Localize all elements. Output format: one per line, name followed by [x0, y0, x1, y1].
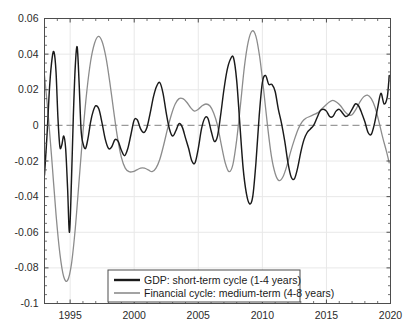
- x-axis-tick-label: 2020: [379, 309, 403, 321]
- y-axis-tick-label: -0.04: [15, 190, 39, 202]
- legend-label-1: Financial cycle: medium-term (4-8 years): [144, 287, 334, 299]
- y-axis-tick-label: 0.06: [18, 12, 39, 24]
- legend-label-0: GDP: short-term cycle (1-4 years): [144, 274, 301, 286]
- y-axis-tick-label: -0.06: [15, 226, 39, 238]
- line-chart: 0.060.040.020-0.02-0.04-0.06-0.08-0.1199…: [0, 0, 408, 334]
- x-axis-tick-label: 2015: [315, 309, 339, 321]
- y-axis-tick-label: -0.08: [15, 261, 39, 273]
- y-axis-tick-label: 0.04: [18, 48, 39, 60]
- y-axis-tick-label: 0.02: [18, 83, 39, 95]
- chart-figure: 0.060.040.020-0.02-0.04-0.06-0.08-0.1199…: [0, 0, 408, 334]
- y-axis-tick-label: -0.02: [15, 155, 39, 167]
- y-axis-tick-label: 0: [33, 119, 39, 131]
- x-axis-tick-label: 2010: [251, 309, 275, 321]
- x-axis-tick-label: 2000: [123, 309, 147, 321]
- y-axis-tick-label: -0.1: [20, 297, 38, 309]
- x-axis-tick-label: 1995: [58, 309, 82, 321]
- x-axis-tick-label: 2005: [187, 309, 211, 321]
